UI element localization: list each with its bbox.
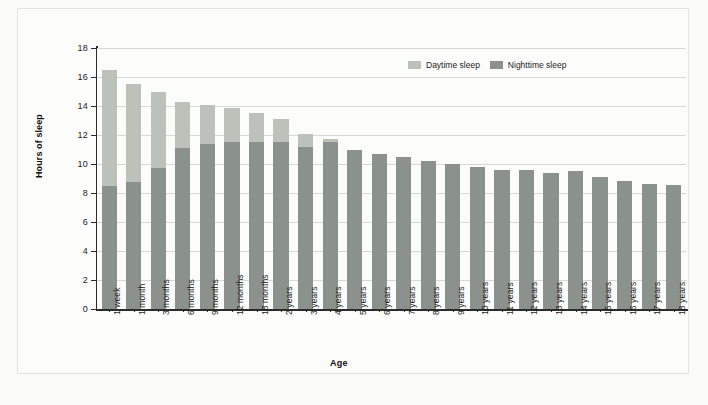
x-axis-tick bbox=[649, 309, 650, 312]
legend-item-daytime: Daytime sleep bbox=[408, 60, 480, 70]
legend-swatch-daytime-icon bbox=[408, 61, 421, 69]
y-axis-tick bbox=[91, 48, 96, 49]
x-axis-tick-label: 2 years bbox=[284, 286, 294, 315]
x-axis-tick-label: 18 years bbox=[677, 282, 687, 315]
y-axis-tick bbox=[91, 309, 96, 310]
bar-series-group bbox=[97, 48, 686, 309]
bar-stack bbox=[323, 139, 338, 309]
bar-segment-daytime bbox=[224, 108, 239, 142]
x-axis-tick bbox=[257, 309, 258, 312]
bar-stack bbox=[298, 134, 313, 309]
x-axis-tick-label: 3 months bbox=[161, 279, 171, 315]
x-axis-tick-label: 12 months bbox=[235, 274, 245, 315]
bar-segment-daytime bbox=[273, 119, 288, 142]
y-axis-tick-label: 0 bbox=[83, 304, 88, 314]
bar-segment-daytime bbox=[298, 134, 313, 147]
bar-stack bbox=[126, 84, 141, 309]
y-axis-tick bbox=[91, 222, 96, 223]
bar-stack bbox=[102, 70, 117, 309]
y-axis-tick bbox=[91, 106, 96, 107]
bar-stack bbox=[347, 150, 362, 310]
x-axis-tick bbox=[428, 309, 429, 312]
x-axis-tick bbox=[526, 309, 527, 312]
x-axis-tick-label: 16 years bbox=[628, 282, 638, 315]
y-axis-tick bbox=[91, 251, 96, 252]
bar-segment-nighttime bbox=[298, 147, 313, 309]
x-axis-tick-label: 7 years bbox=[407, 286, 417, 315]
y-axis-tick-label: 4 bbox=[83, 246, 88, 256]
bar-segment-daytime bbox=[126, 84, 141, 182]
y-axis-tick-label: 6 bbox=[83, 217, 88, 227]
x-axis-tick-label: 1 month bbox=[137, 284, 147, 315]
y-axis-tick-label: 8 bbox=[83, 188, 88, 198]
x-axis-tick-label: 17 years bbox=[652, 282, 662, 315]
x-axis-tick-label: 3 years bbox=[309, 286, 319, 315]
plot-area: 024681012141618 bbox=[97, 48, 686, 309]
y-axis-title: Hours of sleep bbox=[34, 114, 44, 178]
x-axis-tick bbox=[355, 309, 356, 312]
x-axis-tick-label: 13 years bbox=[554, 282, 564, 315]
x-axis-tick-label: 6 years bbox=[382, 286, 392, 315]
x-axis-tick bbox=[183, 309, 184, 312]
x-axis-tick bbox=[453, 309, 454, 312]
bar-segment-daytime bbox=[200, 105, 215, 145]
bar-segment-daytime bbox=[175, 102, 190, 148]
y-axis-tick-label: 12 bbox=[78, 130, 88, 140]
y-axis-tick bbox=[91, 135, 96, 136]
x-axis-tick bbox=[625, 309, 626, 312]
x-axis-tick bbox=[232, 309, 233, 312]
legend-label-nighttime: Nighttime sleep bbox=[508, 60, 567, 70]
x-axis-tick-label: 9 months bbox=[210, 279, 220, 315]
chart-legend: Daytime sleep Nighttime sleep bbox=[408, 60, 566, 70]
y-axis-tick bbox=[91, 280, 96, 281]
x-axis-tick bbox=[551, 309, 552, 312]
bar-segment-daytime bbox=[249, 113, 264, 143]
bar-segment-daytime bbox=[102, 70, 117, 186]
y-axis-tick-label: 2 bbox=[83, 275, 88, 285]
x-axis-tick bbox=[502, 309, 503, 312]
x-axis-tick bbox=[404, 309, 405, 312]
x-axis-tick-label: 12 years bbox=[529, 282, 539, 315]
x-axis-tick bbox=[576, 309, 577, 312]
bar-segment-daytime bbox=[151, 92, 166, 168]
x-axis-tick-label: 15 years bbox=[603, 282, 613, 315]
x-axis-title: Age bbox=[330, 358, 348, 368]
y-axis-tick-label: 18 bbox=[78, 43, 88, 53]
x-axis-tick-label: 6 months bbox=[186, 279, 196, 315]
x-axis-tick bbox=[158, 309, 159, 312]
x-axis-tick-label: 5 years bbox=[358, 286, 368, 315]
x-axis-tick-label: 18 months bbox=[260, 274, 270, 315]
bar-stack bbox=[151, 92, 166, 310]
x-axis-tick-label: 4 years bbox=[333, 286, 343, 315]
y-axis-tick-label: 16 bbox=[78, 72, 88, 82]
x-axis-tick-label: 11 years bbox=[505, 282, 515, 315]
legend-swatch-nighttime-icon bbox=[490, 61, 503, 69]
x-axis-tick bbox=[281, 309, 282, 312]
x-axis-tick bbox=[477, 309, 478, 312]
y-axis-tick bbox=[91, 164, 96, 165]
x-axis-tick bbox=[330, 309, 331, 312]
y-axis-tick bbox=[91, 77, 96, 78]
x-axis-tick-label: 10 years bbox=[480, 282, 490, 315]
bar-stack bbox=[175, 102, 190, 309]
x-axis-tick bbox=[600, 309, 601, 312]
y-axis-tick-label: 14 bbox=[78, 101, 88, 111]
bar-segment-nighttime bbox=[347, 150, 362, 310]
x-axis-tick-label: 9 years bbox=[456, 286, 466, 315]
x-axis-tick bbox=[674, 309, 675, 312]
bar-segment-nighttime bbox=[323, 142, 338, 309]
x-axis-tick bbox=[207, 309, 208, 312]
x-axis-tick-label: 14 years bbox=[579, 282, 589, 315]
y-axis-tick bbox=[91, 193, 96, 194]
x-axis-tick bbox=[109, 309, 110, 312]
bar-segment-nighttime bbox=[273, 142, 288, 309]
x-axis-tick-label: 8 years bbox=[431, 286, 441, 315]
legend-item-nighttime: Nighttime sleep bbox=[490, 60, 567, 70]
chart-page: Hours of sleep 024681012141618 1 week1 m… bbox=[0, 0, 708, 405]
x-axis-tick-label: 1 week bbox=[112, 287, 122, 315]
y-axis-tick-label: 10 bbox=[78, 159, 88, 169]
x-axis-tick bbox=[379, 309, 380, 312]
x-axis-tick bbox=[134, 309, 135, 312]
bar-stack bbox=[273, 119, 288, 309]
x-axis-tick bbox=[306, 309, 307, 312]
